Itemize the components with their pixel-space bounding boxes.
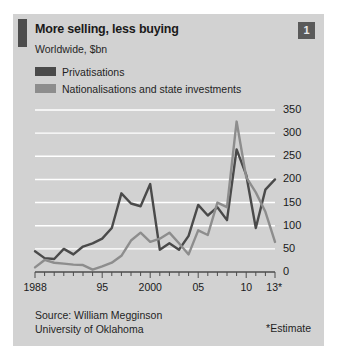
legend-swatch-privatisations xyxy=(35,67,56,76)
chart-svg xyxy=(13,102,324,302)
x-axis-tick-label: 05 xyxy=(192,281,204,293)
legend-item-nationalisations: Nationalisations and state investments xyxy=(35,79,241,91)
x-axis-tick-label: 1988 xyxy=(23,281,46,293)
series-lines xyxy=(35,122,275,270)
x-axis-ticks xyxy=(35,272,275,278)
x-axis-tick-label: 13* xyxy=(266,281,282,293)
source-note: Source: William Megginson University of … xyxy=(35,308,162,336)
x-axis-tick-label: 10 xyxy=(240,281,252,293)
legend-swatch-nationalisations xyxy=(35,84,56,93)
y-axis-tick-label: 0 xyxy=(283,265,289,277)
source-line-1: Source: William Megginson xyxy=(35,309,162,321)
y-axis-tick-label: 300 xyxy=(283,126,301,138)
figure-number-badge: 1 xyxy=(298,22,315,39)
plot-area: 050100150200250300350 1988952000051013* xyxy=(13,102,324,302)
series-line xyxy=(35,122,275,270)
x-axis-tick-label: 2000 xyxy=(139,281,162,293)
y-axis-tick-label: 200 xyxy=(283,172,301,184)
y-axis-tick-label: 50 xyxy=(283,242,295,254)
y-axis-tick-label: 250 xyxy=(283,149,301,161)
chart-figure: 1 More selling, less buying Worldwide, $… xyxy=(13,14,324,346)
y-axis-tick-label: 150 xyxy=(283,196,301,208)
legend-label-privatisations: Privatisations xyxy=(62,66,124,78)
estimate-note: *Estimate xyxy=(266,322,311,334)
legend-item-privatisations: Privatisations xyxy=(35,62,124,74)
y-axis-tick-label: 350 xyxy=(283,103,301,115)
chart-subtitle: Worldwide, $bn xyxy=(35,43,107,55)
x-axis-tick-label: 95 xyxy=(96,281,108,293)
accent-bar xyxy=(18,19,27,47)
y-axis-tick-label: 100 xyxy=(283,219,301,231)
source-line-2: University of Oklahoma xyxy=(35,323,144,335)
legend-label-nationalisations: Nationalisations and state investments xyxy=(62,83,241,95)
series-line xyxy=(35,149,275,259)
chart-title: More selling, less buying xyxy=(35,22,179,36)
